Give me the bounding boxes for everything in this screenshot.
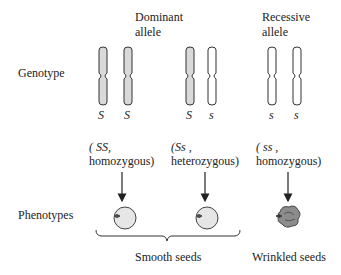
chromosome-dominant	[124, 47, 132, 105]
wrinkled-seed	[276, 206, 300, 227]
chromosome-recessive	[293, 47, 301, 105]
allele-letter: s	[294, 108, 299, 123]
chromosome-pair-ss-homozygous-dominant	[99, 47, 132, 105]
genotype-label-3-line1: ( ss ,	[256, 140, 278, 155]
allele-letter: s	[269, 108, 274, 123]
chromosome-recessive	[268, 47, 276, 105]
allele-letter: S	[186, 108, 192, 123]
genotype-phenotype-figure	[0, 0, 341, 275]
chromosome-dominant	[99, 47, 107, 105]
chromosome-recessive	[208, 47, 216, 105]
chromosome-dominant	[186, 47, 194, 105]
allele-letter: s	[209, 108, 214, 123]
smooth-seed-1	[114, 207, 136, 229]
genotype-label-2-line2: heterozygous)	[171, 154, 239, 169]
allele-letter: S	[124, 108, 130, 123]
arrow-head-2	[202, 194, 209, 201]
genotype-label-1-line2: homozygous)	[89, 154, 154, 169]
wrinkled-seeds-caption: Wrinkled seeds	[252, 250, 326, 265]
chromosome-pair-heterozygous	[186, 47, 216, 105]
arrow-head-3	[285, 194, 292, 201]
genotype-label-3-line2: homozygous)	[256, 154, 321, 169]
chromosome-pair-homozygous-recessive	[268, 47, 301, 105]
arrow-head-1	[119, 194, 126, 201]
allele-letter: S	[98, 108, 104, 123]
smooth-seeds-brace	[96, 230, 240, 241]
smooth-seeds-caption: Smooth seeds	[135, 250, 201, 265]
genotype-label-1-line1: ( SS,	[89, 140, 111, 155]
smooth-seed-2	[196, 207, 218, 229]
genotype-label-2-line1: (Ss ,	[171, 140, 192, 155]
